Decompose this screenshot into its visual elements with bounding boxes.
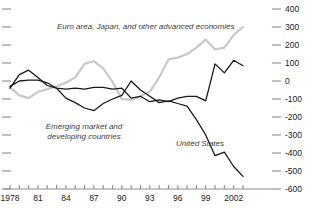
y-axis-tick-label: -300: [285, 130, 302, 140]
series-label-emerging-markets: Emerging market anddeveloping countries: [36, 122, 132, 141]
y-axis-tick-label: -100: [285, 94, 302, 104]
y-axis-tick-label: -500: [285, 166, 302, 176]
y-axis-tick-label: 400: [285, 4, 299, 14]
series-lines: [10, 27, 243, 176]
y-axis-tick-label: -600: [285, 184, 302, 194]
chart-container: 4003002001000-100-200-300-400-500-600 19…: [0, 0, 317, 216]
x-axis-line-and-ticks: [4, 185, 272, 189]
y-axis-tick-label: -200: [285, 112, 302, 122]
y-axis-tick-label: 100: [285, 58, 299, 68]
y-axis-right-ticks: [272, 9, 281, 189]
y-axis-left-ticks: [2, 9, 11, 189]
y-axis-tick-label: 0: [285, 76, 290, 86]
y-axis-tick-label: 200: [285, 40, 299, 50]
chart-plot-area: [0, 0, 317, 216]
series-label-united-states: United States: [176, 139, 224, 149]
y-axis-tick-label: -400: [285, 148, 302, 158]
series-line-2: [10, 60, 243, 101]
y-axis-tick-label: 300: [285, 22, 299, 32]
series-label-advanced-economies: Euro area, Japan, and other advanced eco…: [57, 22, 234, 32]
x-axis-tick-label: 2002: [217, 193, 251, 203]
